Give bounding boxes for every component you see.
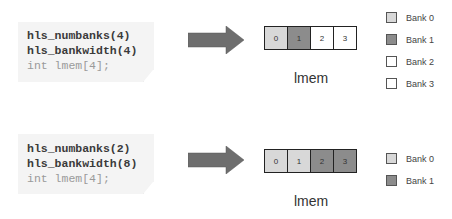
array-cell: 1 bbox=[288, 150, 311, 172]
bank1-swatch-icon bbox=[386, 34, 397, 45]
array-caption-2: lmem bbox=[261, 193, 361, 209]
code-line-declaration: int lmem[4]; bbox=[27, 59, 110, 73]
legend-item-bank1: Bank 1 bbox=[386, 175, 434, 186]
legend-label: Bank 2 bbox=[406, 57, 434, 67]
bank1-swatch-icon bbox=[386, 175, 397, 186]
code-line-declaration: int lmem[4]; bbox=[27, 172, 110, 186]
array-cell: 2 bbox=[311, 27, 334, 49]
array-cell: 0 bbox=[265, 150, 288, 172]
array-cell: 1 bbox=[288, 27, 311, 49]
legend-item-bank2: Bank 2 bbox=[386, 56, 434, 67]
code-snippet-2: hls_numbanks(2) hls_bankwidth(8) int lme… bbox=[18, 134, 154, 194]
code-line-bankwidth: hls_bankwidth(8) bbox=[27, 157, 137, 171]
memory-array-1: 0 1 2 3 bbox=[264, 26, 357, 50]
legend-label: Bank 3 bbox=[406, 79, 434, 89]
legend-label: Bank 0 bbox=[406, 154, 434, 164]
array-cell: 3 bbox=[334, 27, 356, 49]
right-arrow-icon bbox=[188, 146, 244, 174]
code-snippet-1: hls_numbanks(4) hls_bankwidth(4) int lme… bbox=[18, 22, 154, 82]
array-cell: 2 bbox=[311, 150, 334, 172]
array-caption-1: lmem bbox=[261, 70, 361, 86]
legend-item-bank1: Bank 1 bbox=[386, 34, 434, 45]
legend-item-bank0: Bank 0 bbox=[386, 12, 434, 23]
code-line-numbanks: hls_numbanks(4) bbox=[27, 29, 131, 43]
legend-label: Bank 1 bbox=[406, 176, 434, 186]
bank0-swatch-icon bbox=[386, 153, 397, 164]
code-line-bankwidth: hls_bankwidth(4) bbox=[27, 44, 137, 58]
legend-item-bank3: Bank 3 bbox=[386, 78, 434, 89]
legend-label: Bank 0 bbox=[406, 13, 434, 23]
memory-array-2: 0 1 2 3 bbox=[264, 149, 357, 173]
bank0-swatch-icon bbox=[386, 12, 397, 23]
legend-item-bank0: Bank 0 bbox=[386, 153, 434, 164]
legend-label: Bank 1 bbox=[406, 35, 434, 45]
array-cell: 3 bbox=[334, 150, 356, 172]
bank2-swatch-icon bbox=[386, 56, 397, 67]
array-cell: 0 bbox=[265, 27, 288, 49]
right-arrow-icon bbox=[188, 26, 244, 54]
code-line-numbanks: hls_numbanks(2) bbox=[27, 142, 131, 156]
bank3-swatch-icon bbox=[386, 78, 397, 89]
